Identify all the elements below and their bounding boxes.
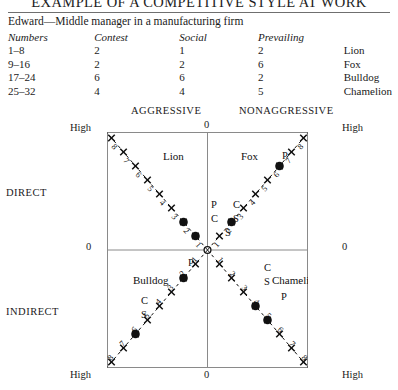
marker-letter-c: C [264, 262, 271, 273]
scale-tick-label: 5 [146, 184, 156, 194]
quadrant-lion: 12345678LionPCS [107, 132, 231, 250]
data-point [131, 330, 140, 339]
table-cell: Chamelion [344, 85, 392, 98]
axis-caption-aggressive: AGGRESSIVE [131, 105, 201, 116]
column-header [344, 31, 392, 44]
axis-tick-right-top: High [342, 122, 363, 133]
data-point [179, 218, 188, 227]
axis-tick-bottom-mid: 0 [204, 369, 209, 380]
title-divider [8, 12, 390, 13]
axis-tick-right-bottom: High [342, 369, 363, 380]
scale-tick-label: 5 [259, 184, 269, 194]
scale-tick-label: 4 [247, 197, 258, 207]
table-cell: 2 [174, 58, 255, 71]
marker-letter-c: C [233, 199, 240, 210]
marker-letter-p: P [282, 150, 288, 161]
data-point [179, 274, 188, 283]
marker-letter-s: S [233, 213, 239, 224]
table-cell: 1 [174, 44, 255, 57]
axis-caption-indirect: INDIRECT [6, 306, 59, 317]
column-header: Social [174, 31, 255, 44]
table-cell: 2 [255, 44, 344, 57]
data-point [251, 302, 260, 311]
column-header: Numbers [8, 31, 89, 44]
table-cell: 6 [174, 71, 255, 84]
column-header: Prevailing [255, 31, 344, 44]
table-cell: 9–16 [8, 58, 89, 71]
table-header-row: NumbersContestSocialPrevailing [8, 31, 392, 44]
axis-tick-right-mid: 0 [342, 241, 347, 252]
quadrant-fox: 12345678FoxCSP [208, 132, 309, 250]
quadrant-label: Fox [241, 150, 259, 162]
data-point [191, 232, 200, 241]
table-cell: 2 [255, 71, 344, 84]
table-row: 25–32445Chamelion [8, 85, 392, 98]
scale-tick-label: 8 [300, 353, 308, 363]
marker-letter-p: P [211, 199, 217, 210]
axis-caption-nonaggressive: NONAGGRESSIVE [239, 105, 334, 116]
scale-tick-label: 6 [271, 170, 281, 180]
table-cell: 6 [89, 71, 174, 84]
table-cell: 2 [89, 58, 174, 71]
marker-letter-c: C [141, 295, 148, 306]
table-cell: 2 [89, 44, 174, 57]
table-cell: 1–8 [8, 44, 89, 57]
quadrant-chart-svg: 12345678LionPCS12345678FoxCSP12345678Bul… [107, 132, 308, 368]
axis-tick-left-top: High [70, 122, 91, 133]
table-cell: Lion [344, 44, 392, 57]
scale-tick-label: 3 [170, 212, 180, 222]
scale-tick-label: 6 [134, 170, 144, 180]
axis-tick-top-mid: 0 [204, 119, 209, 130]
data-point [275, 162, 284, 171]
table-cell: Bulldog [344, 71, 392, 84]
quadrant-label: Lion [163, 150, 184, 162]
table-cell: 25–32 [8, 85, 89, 98]
table-cell: 4 [174, 85, 255, 98]
marker-letter-s: S [264, 276, 270, 287]
table-cell: 6 [255, 58, 344, 71]
scale-tick-label: 8 [295, 142, 305, 152]
marker-letter-c: C [211, 213, 218, 224]
marker-letter-p: P [281, 291, 287, 302]
quadrant-chamelion: 12345678ChamelionCSP [208, 250, 309, 368]
scale-tick-label: 1 [211, 240, 221, 250]
quadrant-label: Bulldog [133, 274, 169, 286]
table-cell: 17–24 [8, 71, 89, 84]
column-header: Contest [89, 31, 174, 44]
table-row: 1–8212Lion [8, 44, 392, 57]
axis-tick-left-bottom: High [70, 369, 91, 380]
quadrant-label: Chamelion [272, 274, 308, 286]
table-cell: 4 [89, 85, 174, 98]
quadrant-chart: 12345678LionPCS12345678FoxCSP12345678Bul… [107, 132, 308, 368]
axis-tick-left-mid: 0 [86, 241, 91, 252]
scale-tick-label: 4 [153, 296, 164, 306]
marker-letter-p: P [188, 257, 194, 268]
scale-tick-label: 8 [107, 353, 115, 363]
page-title: EXAMPLE OF A COMPETITIVE STYLE AT WORK [0, 0, 398, 11]
table-cell: Fox [344, 58, 392, 71]
score-table: NumbersContestSocialPrevailing1–8212Lion… [8, 31, 392, 98]
table-row: 9–16226Fox [8, 58, 392, 71]
subtitle: Edward—Middle manager in a manufacturing… [8, 15, 243, 27]
scale-tick-label: 4 [158, 198, 169, 208]
data-point [263, 316, 272, 325]
table-cell: 5 [255, 85, 344, 98]
marker-letter-s: S [141, 309, 147, 320]
scale-tick-label: 7 [117, 339, 127, 349]
axis-caption-direct: DIRECT [6, 187, 47, 198]
table-row: 17–24662Bulldog [8, 71, 392, 84]
quadrant-bulldog: 12345678BulldogCSP [107, 250, 208, 368]
